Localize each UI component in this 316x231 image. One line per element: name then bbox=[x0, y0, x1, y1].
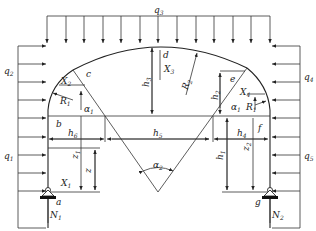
label-q4: q4 bbox=[304, 72, 314, 83]
support-left: a N1 bbox=[40, 188, 62, 224]
label-z1: z1 bbox=[70, 150, 81, 160]
load-right: q4 q5 bbox=[272, 46, 314, 228]
label-g: g bbox=[255, 197, 261, 207]
load-left: q2 q1 bbox=[4, 46, 46, 228]
label-h5: h5 bbox=[153, 128, 163, 139]
right-details: h2 e X4 R1 α1 f h4 h1 z2 bbox=[210, 71, 270, 192]
label-R1-left: R1 bbox=[59, 96, 71, 107]
label-X3: X3 bbox=[163, 64, 174, 75]
label-R2: R2 bbox=[180, 78, 194, 93]
label-a: a bbox=[56, 197, 61, 207]
label-X4: X4 bbox=[239, 87, 250, 98]
label-q1: q1 bbox=[4, 151, 14, 162]
left-details: X2 R1 α1 c b h6 z1 z X1 bbox=[48, 69, 105, 192]
label-N2: N2 bbox=[271, 210, 284, 221]
label-h2: h2 bbox=[210, 90, 221, 100]
label-e: e bbox=[230, 74, 235, 84]
label-f: f bbox=[257, 123, 263, 133]
label-c: c bbox=[86, 69, 91, 79]
label-q3: q3 bbox=[154, 5, 164, 16]
label-z: z bbox=[83, 168, 93, 174]
label-b: b bbox=[56, 119, 62, 129]
label-h4: h4 bbox=[237, 128, 247, 139]
label-N1: N1 bbox=[49, 210, 62, 221]
center-details: h3 d X3 R2 h5 bbox=[107, 48, 209, 139]
support-right: g N2 bbox=[255, 188, 284, 224]
load-q3-top: q3 bbox=[47, 5, 270, 43]
label-q5: q5 bbox=[304, 151, 314, 162]
label-q2: q2 bbox=[4, 66, 14, 77]
label-alpha1-left: α1 bbox=[84, 104, 94, 115]
structural-frame-diagram: q3 q2 q1 q4 q5 bbox=[0, 0, 316, 231]
label-h1: h1 bbox=[215, 150, 226, 160]
label-X2: X2 bbox=[60, 76, 71, 87]
label-X1: X1 bbox=[60, 178, 71, 189]
label-alpha2: α2 bbox=[153, 160, 163, 171]
label-z2: z2 bbox=[241, 142, 252, 152]
label-d: d bbox=[163, 50, 169, 60]
label-h3: h3 bbox=[141, 77, 152, 87]
label-alpha1-right: α1 bbox=[231, 102, 241, 113]
label-h6: h6 bbox=[68, 128, 78, 139]
